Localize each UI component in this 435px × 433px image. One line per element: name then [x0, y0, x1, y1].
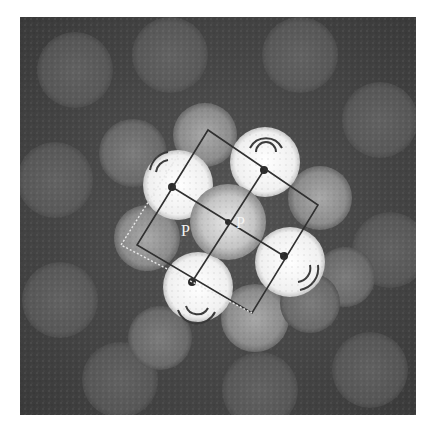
- label-p-right: P: [236, 214, 245, 231]
- diffraction-pattern-figure: P P: [20, 17, 416, 415]
- diffraction-svg: P P: [20, 17, 416, 415]
- label-p-left: P: [181, 222, 190, 239]
